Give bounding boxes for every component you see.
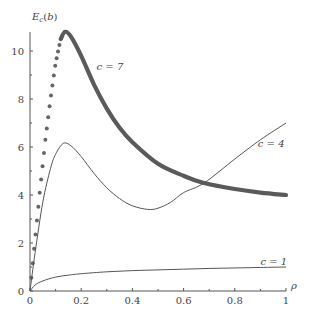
x-tick-label: 0 (27, 295, 33, 306)
series-c7-marker (50, 84, 54, 88)
series-c7-marker (39, 177, 43, 181)
series-c7-marker (57, 43, 61, 47)
x-axis-label: ρ (290, 280, 297, 291)
y-tick-label: 0 (18, 286, 24, 297)
y-tick-label: 8 (18, 94, 24, 105)
y-axis-label: Ec(b) (31, 11, 58, 24)
series-c7-marker (45, 127, 49, 131)
series-c7-marker (36, 205, 40, 209)
line-chart: 00.20.40.60.810246810ρEc(b)c = 7c = 4c =… (0, 0, 312, 324)
series-c7-marker (52, 74, 56, 78)
series-c7-marker (42, 151, 46, 155)
series-label: c = 1 (260, 256, 287, 267)
y-tick-label: 10 (11, 46, 24, 57)
series-label: c = 7 (97, 61, 124, 72)
y-tick-label: 6 (18, 142, 24, 153)
chart-figure: 00.20.40.60.810246810ρEc(b)c = 7c = 4c =… (0, 0, 312, 324)
series-c7-marker (38, 191, 42, 195)
x-tick-label: 0.4 (124, 295, 140, 306)
series-c7-marker (46, 115, 50, 119)
series-c4-line (30, 123, 286, 291)
series-c7-line (61, 32, 286, 195)
x-tick-label: 0.2 (73, 295, 89, 306)
series-c7-marker (35, 219, 39, 223)
y-tick-label: 2 (18, 238, 24, 249)
x-tick-label: 1 (283, 295, 289, 306)
x-tick-label: 0.8 (227, 295, 243, 306)
series-label: c = 4 (258, 138, 285, 149)
series-c7-marker (53, 64, 57, 68)
series-c7-marker (48, 104, 52, 108)
series-c7-marker (49, 93, 53, 97)
series-c1-line (30, 267, 286, 291)
y-tick-label: 4 (18, 190, 24, 201)
series-c7-marker (55, 56, 59, 60)
series-c7-marker (41, 164, 45, 168)
series-c7-marker (56, 50, 60, 54)
x-tick-label: 0.6 (176, 295, 192, 306)
series-c7-marker (43, 138, 47, 142)
series-c7-marker (34, 232, 38, 236)
